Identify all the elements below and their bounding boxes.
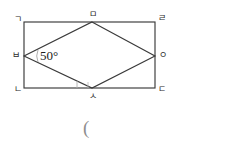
vertex-label-top-right: ㄹ	[158, 14, 166, 23]
caption-open-paren: (	[83, 118, 89, 137]
figure-page: ㄱ ㅁ ㄹ ㅂ ㅇ ㄴ ㅅ ㄷ 50° (	[0, 0, 225, 148]
geometry-figure	[0, 0, 225, 148]
vertex-label-top-left: ㄱ	[14, 15, 22, 24]
vertex-label-bottom-left: ㄴ	[14, 85, 22, 94]
angle-arc	[37, 50, 38, 62]
vertex-label-middle-right: ㅇ	[159, 51, 167, 60]
vertex-label-middle-left: ㅂ	[12, 51, 20, 60]
vertex-label-bottom-center: ㅅ	[89, 92, 97, 101]
angle-measure-label: 50°	[40, 49, 58, 62]
vertex-label-top-center: ㅁ	[89, 10, 97, 19]
vertex-label-bottom-right: ㄷ	[158, 85, 166, 94]
